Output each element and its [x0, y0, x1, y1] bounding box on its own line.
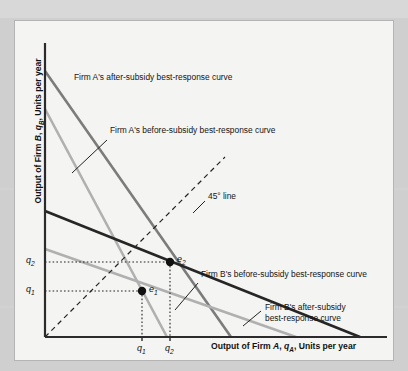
curve-45-line [45, 157, 225, 337]
curve-firm-a-s-after-subsidy-best-response-curve [45, 71, 231, 337]
equilibrium-dot-e2[interactable] [166, 258, 174, 266]
y-axis-label: Output of Firm B, qB, Units per year [33, 56, 45, 206]
page-top-text [10, 1, 400, 15]
point-sub-e1: 1 [154, 289, 158, 296]
annotation-firm-a-after: Firm A's after-subsidy best-response cur… [74, 72, 232, 83]
x-axis-label-suffix: , Units per year [294, 341, 356, 351]
point-label-e2: e2 [177, 254, 186, 266]
x-tick-label-q2: q2 [165, 343, 174, 355]
leader-firm-a-before [72, 140, 107, 173]
y-axis-label-prefix: Output of Firm [33, 141, 43, 203]
y-tick-sub-q2: 2 [31, 260, 35, 267]
equilibrium-dot-e1[interactable] [138, 287, 146, 295]
y-tick-label-q1: q1 [26, 284, 35, 296]
annotation-firm-b-after: Firm B's after-subsidy best-response cur… [265, 302, 346, 323]
annotation-45-line-text: 45° line [208, 191, 236, 201]
annotation-firm-a-before: Firm A's before-subsidy best-response cu… [110, 125, 275, 136]
annotation-firm-a-after-text: Firm A's after-subsidy best-response cur… [74, 72, 232, 82]
leader-45 [193, 201, 205, 213]
page-wrap: Output of Firm B, qB, Units per year Out… [0, 0, 408, 371]
x-axis-label: Output of Firm A, qA, Units per year [211, 341, 356, 353]
y-axis-label-comma: , [33, 130, 43, 135]
annotation-firm-b-after-line1: Firm B's after-subsidy [265, 302, 346, 313]
y-axis-label-firm: B [33, 135, 43, 141]
y-tick-label-q2: q2 [26, 255, 35, 267]
point-label-e1: e1 [149, 284, 158, 296]
x-axis-label-prefix: Output of Firm [211, 341, 273, 351]
dotted-guides-layer [45, 262, 170, 337]
annotation-firm-b-before: Firm B's before-subsidy best-response cu… [201, 269, 367, 280]
x-tick-sub-q1: 1 [142, 348, 146, 355]
y-tick-sub-q1: 1 [31, 289, 35, 296]
y-axis-label-symbol: q [33, 125, 43, 130]
x-tick-label-q1: q1 [137, 343, 146, 355]
point-sub-e2: 2 [182, 259, 186, 266]
annotation-firm-a-before-text: Firm A's before-subsidy best-response cu… [110, 125, 275, 135]
curve-firm-a-s-before-subsidy-best-response-curve [45, 109, 167, 337]
x-tick-sub-q2: 2 [170, 348, 174, 355]
y-axis-label-symbol-sub: B [38, 120, 45, 125]
annotation-firm-b-before-text: Firm B's before-subsidy best-response cu… [201, 269, 367, 279]
annotation-45-line: 45° line [208, 191, 236, 202]
figure-card: Output of Firm B, qB, Units per year Out… [14, 20, 394, 361]
y-axis-label-suffix: , Units per year [33, 58, 43, 120]
annotation-firm-b-after-line2: best-response curve [265, 313, 346, 324]
